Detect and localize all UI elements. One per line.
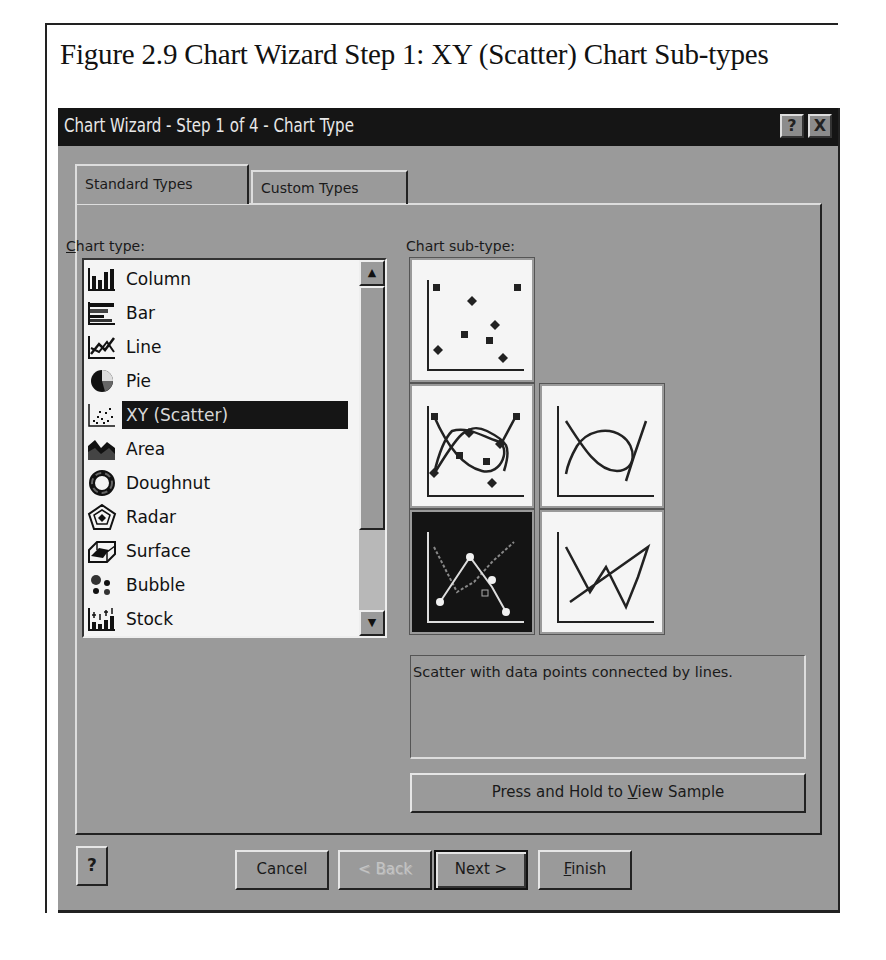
list-item-xy-scatter[interactable]: XY (Scatter) bbox=[86, 398, 351, 432]
bubble-chart-icon bbox=[86, 571, 118, 599]
list-item-surface[interactable]: Surface bbox=[86, 534, 351, 568]
cancel-button[interactable]: Cancel bbox=[235, 850, 329, 890]
list-item-label: Line bbox=[122, 333, 165, 361]
list-item-column[interactable]: Column bbox=[86, 262, 351, 296]
pie-chart-icon bbox=[86, 367, 118, 395]
chart-type-label: Chart type: bbox=[66, 238, 145, 254]
scatter-chart-icon bbox=[86, 401, 118, 429]
button-label: inish bbox=[571, 860, 606, 878]
list-item-stock[interactable]: Stock bbox=[86, 602, 351, 636]
triangle-down-icon: ▼ bbox=[368, 616, 376, 629]
list-item-label: Column bbox=[122, 265, 195, 293]
close-icon: X bbox=[814, 116, 826, 135]
subtype-scatter-lines-markers[interactable] bbox=[410, 510, 534, 634]
radar-chart-icon bbox=[86, 503, 118, 531]
stock-chart-icon bbox=[86, 605, 118, 633]
tab-custom-types[interactable]: Custom Types bbox=[251, 170, 408, 204]
scatter-markers-icon bbox=[412, 260, 532, 380]
listbox-scrollbar[interactable]: ▲ ▼ bbox=[359, 260, 385, 636]
list-item-label: Bubble bbox=[122, 571, 189, 599]
list-item-pie[interactable]: Pie bbox=[86, 364, 351, 398]
list-item-radar[interactable]: Radar bbox=[86, 500, 351, 534]
mnemonic: C bbox=[66, 238, 76, 254]
list-item-area[interactable]: Area bbox=[86, 432, 351, 466]
list-item-bar[interactable]: Bar bbox=[86, 296, 351, 330]
list-item-label: XY (Scatter) bbox=[122, 401, 348, 429]
scatter-smooth-markers-icon bbox=[412, 386, 532, 506]
list-item-label: Pie bbox=[122, 367, 155, 395]
tab-label: Standard Types bbox=[85, 176, 193, 192]
list-item-label: Doughnut bbox=[122, 469, 214, 497]
subtype-scatter-smoothed-lines[interactable] bbox=[540, 384, 664, 508]
list-item-label: Stock bbox=[122, 605, 177, 633]
triangle-up-icon: ▲ bbox=[368, 266, 376, 279]
press-and-hold-sample-button[interactable]: Press and Hold to View Sample bbox=[410, 773, 806, 813]
line-chart-icon bbox=[86, 333, 118, 361]
next-button[interactable]: Next > bbox=[434, 850, 528, 890]
title-bar[interactable]: Chart Wizard - Step 1 of 4 - Chart Type … bbox=[58, 108, 838, 146]
subtype-scatter-lines[interactable] bbox=[540, 510, 664, 634]
chart-type-listbox[interactable]: Column Bar Line Pie XY (Scatter) Area Do… bbox=[82, 258, 387, 638]
doughnut-chart-icon bbox=[86, 469, 118, 497]
list-item-label: Radar bbox=[122, 503, 180, 531]
chart-subtype-label: Chart sub-type: bbox=[406, 238, 515, 254]
button-label: iew Sample bbox=[638, 783, 725, 801]
button-label: Press and Hold to bbox=[492, 783, 628, 801]
figure-caption: Figure 2.9 Chart Wizard Step 1: XY (Scat… bbox=[60, 38, 768, 71]
list-item-label: Area bbox=[122, 435, 169, 463]
scatter-lines-icon bbox=[542, 512, 662, 632]
mnemonic: V bbox=[628, 783, 638, 801]
close-button[interactable]: X bbox=[808, 114, 832, 138]
list-item-label: Bar bbox=[122, 299, 159, 327]
figure-frame-top bbox=[46, 23, 838, 25]
finish-button[interactable]: Finish bbox=[538, 850, 632, 890]
subtype-description: Scatter with data points connected by li… bbox=[410, 655, 806, 759]
subtype-scatter-smoothed-lines-markers[interactable] bbox=[410, 384, 534, 508]
bar-chart-icon bbox=[86, 299, 118, 327]
question-icon: ? bbox=[787, 116, 796, 135]
scatter-lines-markers-icon bbox=[412, 512, 532, 632]
help-bubble-icon: ? bbox=[87, 855, 97, 875]
surface-chart-icon bbox=[86, 537, 118, 565]
list-item-bubble[interactable]: Bubble bbox=[86, 568, 351, 602]
list-item-doughnut[interactable]: Doughnut bbox=[86, 466, 351, 500]
chart-wizard-dialog: Chart Wizard - Step 1 of 4 - Chart Type … bbox=[58, 108, 840, 913]
area-chart-icon bbox=[86, 435, 118, 463]
list-item-label: Surface bbox=[122, 537, 195, 565]
back-button-disabled[interactable]: < Back bbox=[338, 850, 432, 890]
subtype-scatter-markers-only[interactable] bbox=[410, 258, 534, 382]
scroll-up-button[interactable]: ▲ bbox=[359, 260, 385, 286]
list-item-line[interactable]: Line bbox=[86, 330, 351, 364]
help-title-button[interactable]: ? bbox=[780, 114, 804, 138]
office-assistant-help-button[interactable]: ? bbox=[76, 846, 108, 886]
tab-standard-types[interactable]: Standard Types bbox=[75, 164, 249, 204]
column-chart-icon bbox=[86, 265, 118, 293]
dialog-title: Chart Wizard - Step 1 of 4 - Chart Type bbox=[64, 114, 354, 136]
scroll-down-button[interactable]: ▼ bbox=[359, 610, 385, 636]
scatter-smooth-lines-icon bbox=[542, 386, 662, 506]
label-text: hart type: bbox=[76, 238, 145, 254]
figure-frame-left bbox=[45, 23, 47, 913]
scroll-thumb[interactable] bbox=[359, 286, 385, 530]
tab-label: Custom Types bbox=[261, 180, 359, 196]
